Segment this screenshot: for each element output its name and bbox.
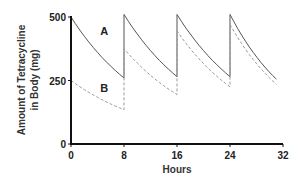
x-tick-label: 32 [277, 150, 289, 161]
x-tick-label: 24 [224, 150, 236, 161]
x-axis-ticks: 08162432 [68, 144, 289, 161]
tetracycline-chart: Amount of Tetracycline in Body (mg) 0250… [0, 0, 299, 185]
x-tick-label: 0 [68, 150, 74, 161]
y-tick-label: 250 [49, 76, 66, 87]
y-tick-label: 500 [49, 12, 66, 23]
y-axis-ticks: 0250500 [49, 12, 71, 150]
curve-label-a: A [100, 25, 108, 37]
x-tick-label: 8 [121, 150, 127, 161]
curve-label-b: B [100, 82, 108, 94]
y-tick-label: 0 [60, 139, 66, 150]
y-axis-title-line-1: Amount of Tetracycline [16, 24, 27, 135]
x-axis-title: Hours [163, 164, 192, 175]
y-axis-title-line-2: in Body (mg) [29, 49, 40, 110]
x-tick-label: 16 [171, 150, 183, 161]
y-axis-title: Amount of Tetracycline in Body (mg) [16, 24, 40, 135]
series-b-line [71, 25, 276, 110]
